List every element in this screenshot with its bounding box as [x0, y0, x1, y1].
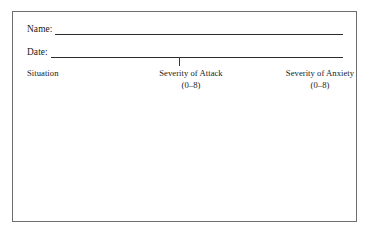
column-header-severity-of-attack-title: Severity of Attack — [121, 68, 261, 80]
column-header-severity-of-anxiety-range: (0–8) — [250, 80, 371, 92]
column-header-situation-title: Situation — [27, 68, 59, 80]
date-field-writing-line[interactable] — [51, 57, 343, 58]
name-field-label: Name: — [27, 22, 53, 36]
column-header-severity-of-anxiety-title: Severity of Anxiety — [250, 68, 371, 80]
column-divider-tick — [179, 57, 180, 66]
column-header-severity-of-attack: Severity of Attack (0–8) — [121, 68, 261, 91]
date-field-label: Date: — [27, 45, 48, 59]
date-field-row: Date: — [13, 45, 356, 61]
column-header-severity-of-attack-range: (0–8) — [121, 80, 261, 92]
name-field-writing-line[interactable] — [55, 34, 343, 35]
name-field-row: Name: — [13, 22, 356, 38]
column-header-severity-of-anxiety: Severity of Anxiety (0–8) — [250, 68, 371, 91]
entry-area[interactable] — [13, 102, 356, 221]
column-header-situation: Situation — [27, 68, 59, 80]
column-header-row: Situation Severity of Attack (0–8) Sever… — [13, 68, 356, 96]
form-frame: Name: Date: Situation Severity of Attack… — [12, 11, 357, 222]
form-page: Name: Date: Situation Severity of Attack… — [0, 0, 371, 236]
